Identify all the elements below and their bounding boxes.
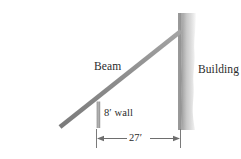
- beam-label: Beam: [94, 61, 121, 73]
- dimension-arrow-right-icon: [173, 136, 180, 141]
- diagram-canvas: [0, 0, 241, 159]
- wall-height-label: 8′ wall: [104, 108, 133, 119]
- building-label: Building: [198, 64, 239, 76]
- beam-wall-building-diagram: Beam Building 8′ wall 27′: [0, 0, 241, 159]
- building-shape: [179, 13, 196, 130]
- dimension-arrow-left-icon: [97, 136, 104, 141]
- ground-span-label: 27′: [128, 133, 143, 144]
- wall-shape: [97, 102, 101, 129]
